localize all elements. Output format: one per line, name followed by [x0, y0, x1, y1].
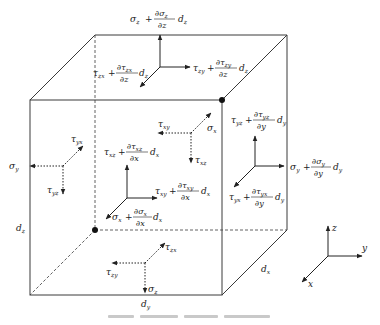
svg-text:+: +: [125, 212, 133, 222]
svg-text:+: +: [145, 14, 153, 24]
axis-label-y: y: [361, 243, 368, 253]
front-face-stresses: [106, 165, 157, 219]
label-right-shear-yz: τyz + ∂τyz ∂y dy: [231, 110, 287, 131]
label-right-shear-yx: τyx + ∂τyx ∂y dy: [229, 187, 285, 208]
label-bottom-tau-zy: τzy: [106, 267, 118, 279]
dimension-left-edge: dz: [16, 223, 26, 234]
svg-text:∂τyz: ∂τyz: [254, 110, 270, 121]
svg-text:τyx: τyx: [229, 192, 241, 204]
node-corner-top-right: [219, 97, 225, 103]
svg-text:∂y: ∂y: [257, 122, 266, 131]
label-back-sigma-x: σx: [207, 123, 217, 134]
svg-text:σy: σy: [290, 162, 300, 174]
dimension-depth-edge: dx: [261, 264, 271, 275]
label-back-tau-xy: τxy: [158, 119, 170, 131]
svg-text:+: +: [118, 147, 126, 157]
label-top-shear-zy: τzy + ∂τzy ∂z dz: [193, 58, 249, 79]
bottom-face-stresses: [112, 243, 165, 293]
label-bottom-tau-zx: τzx: [165, 242, 177, 253]
svg-text:+: +: [303, 162, 311, 172]
svg-text:∂τzx: ∂τzx: [117, 63, 133, 73]
svg-text:τxy: τxy: [155, 186, 167, 198]
svg-text:+: +: [243, 192, 251, 202]
label-bottom-sigma-z: σz: [148, 284, 158, 295]
label-front-shear-xz: τxz + ∂τxz ∂x dx: [104, 142, 160, 163]
svg-text:∂σx: ∂σx: [134, 207, 148, 217]
label-right-normal-stress: σy + ∂σy ∂y dy: [290, 157, 343, 178]
svg-text:+: +: [108, 68, 116, 78]
svg-text:τyz: τyz: [231, 115, 243, 127]
axis-label-x: x: [308, 279, 313, 289]
svg-text:∂x: ∂x: [130, 154, 139, 163]
label-left-tau-yx: τyx: [71, 134, 83, 146]
label-front-normal-stress: σx + ∂σx ∂x dx: [112, 207, 163, 228]
svg-text:+: +: [169, 186, 177, 196]
svg-text:∂z: ∂z: [219, 70, 228, 79]
right-face-stresses: [234, 136, 284, 187]
label-left-tau-yz: τyz: [47, 185, 59, 197]
edge-bottom-right-diagonal: [222, 230, 287, 295]
svg-text:∂z: ∂z: [158, 21, 167, 30]
svg-text:∂τxy: ∂τxy: [178, 181, 194, 192]
svg-text:dy: dy: [277, 115, 287, 127]
left-face-stresses: [30, 146, 83, 194]
svg-text:dx: dx: [153, 212, 163, 223]
label-front-shear-xy: τxy + ∂τxy ∂x dx: [155, 181, 211, 202]
svg-text:dx: dx: [150, 147, 160, 158]
stress-element-diagram: z y x σz + ∂σz ∂z dz τzx + ∂τzx ∂z dz τz…: [0, 0, 380, 325]
svg-text:∂y: ∂y: [255, 199, 264, 208]
svg-text:τzy: τzy: [193, 63, 205, 75]
svg-text:∂z: ∂z: [120, 75, 129, 84]
label-top-normal-stress: σz + ∂σz ∂z dz: [130, 9, 188, 30]
svg-text:dy: dy: [333, 162, 343, 174]
svg-text:∂σy: ∂σy: [312, 157, 326, 168]
svg-text:∂τxz: ∂τxz: [127, 142, 143, 152]
hidden-edge-diagonal: [30, 230, 95, 295]
top-face-stresses: [140, 35, 190, 87]
coordinate-axes: z y x: [302, 223, 368, 289]
svg-text:dx: dx: [201, 186, 211, 197]
svg-text:∂x: ∂x: [181, 193, 190, 202]
node-hidden-corner: [92, 227, 98, 233]
axis-label-z: z: [331, 223, 337, 233]
svg-text:∂σz: ∂σz: [155, 9, 169, 19]
svg-text:∂x: ∂x: [136, 219, 145, 228]
svg-text:dz: dz: [239, 63, 249, 74]
svg-text:dy: dy: [275, 192, 285, 204]
cube: [30, 35, 287, 295]
dimension-bottom-edge: dy: [141, 299, 151, 311]
svg-text:σx: σx: [112, 212, 122, 223]
svg-text:dz: dz: [139, 68, 149, 79]
svg-text:+: +: [245, 115, 253, 125]
svg-text:+: +: [207, 63, 215, 73]
edge-top-left-diagonal: [30, 35, 95, 100]
svg-text:σz: σz: [130, 14, 140, 25]
svg-text:dz: dz: [178, 14, 188, 25]
svg-text:τxz: τxz: [104, 147, 116, 158]
label-back-tau-xz: τxz: [195, 155, 207, 166]
edge-top-right-diagonal: [222, 35, 287, 100]
label-left-sigma-y: σy: [9, 161, 19, 173]
svg-text:∂τzy: ∂τzy: [216, 58, 232, 69]
svg-text:τzx: τzx: [93, 68, 105, 79]
back-face-stresses: [158, 113, 211, 163]
svg-text:∂τyx: ∂τyx: [252, 187, 268, 198]
figure-caption-blurred: [108, 315, 270, 318]
label-top-shear-zx: τzx + ∂τzx ∂z dz: [93, 63, 149, 84]
svg-text:∂y: ∂y: [314, 169, 323, 178]
